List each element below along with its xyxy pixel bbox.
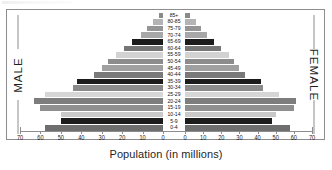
axis-endcap (20, 127, 21, 132)
age-group-label-text: 25-29 (167, 92, 180, 98)
male-bar (124, 46, 163, 52)
x-tick (81, 131, 82, 134)
age-group-label: 5-9 (163, 118, 185, 125)
pyramid-row: 85+ (20, 12, 312, 19)
male-bar (61, 118, 163, 124)
age-group-label-text: 30-34 (167, 85, 180, 91)
female-bar (185, 39, 214, 45)
female-bracket-top (314, 15, 315, 49)
age-group-label: 25-29 (163, 91, 185, 98)
male-bar-cell (20, 85, 163, 92)
male-bar (108, 59, 163, 65)
x-tick (203, 131, 204, 134)
female-bar-cell (185, 32, 312, 39)
population-pyramid-chart: MALE FEMALE 0-45-910-1415-1920-2425-2930… (0, 0, 332, 170)
x-tick-label: 10 (139, 135, 145, 142)
x-tick-label: 20 (119, 135, 125, 142)
pyramid-row: 65-69 (20, 38, 312, 45)
female-bar-cell (185, 19, 312, 26)
male-bar-cell (20, 118, 163, 125)
x-tick (143, 131, 144, 134)
male-bar (34, 98, 163, 104)
x-tick (185, 131, 186, 134)
age-group-label: 65-69 (163, 38, 185, 45)
female-bar (185, 85, 263, 91)
age-group-label-text: 60-64 (167, 45, 180, 51)
age-group-label: 70-74 (163, 32, 185, 39)
male-bar-cell (20, 124, 163, 131)
female-bar-cell (185, 52, 312, 59)
pyramid-row: 55-59 (20, 52, 312, 59)
female-bar (185, 46, 221, 52)
age-group-label: 45-49 (163, 65, 185, 72)
age-group-label-text: 40-44 (167, 72, 180, 78)
pyramid-row: 25-29 (20, 91, 312, 98)
pyramid-row: 5-9 (20, 118, 312, 125)
x-tick (276, 131, 277, 134)
female-bar (185, 13, 190, 19)
age-group-label-text: 5-9 (170, 118, 177, 124)
male-bar-cell (20, 25, 163, 32)
age-group-label: 10-14 (163, 111, 185, 118)
age-group-label: 35-39 (163, 78, 185, 85)
male-bar-cell (20, 19, 163, 26)
male-bar (116, 52, 163, 58)
age-group-label: 85+ (163, 12, 185, 19)
male-bar (77, 79, 163, 85)
male-bar-cell (20, 78, 163, 85)
age-group-label-text: 65-69 (167, 39, 180, 45)
male-bar-cell (20, 105, 163, 112)
x-tick-label: 0 (161, 135, 164, 142)
female-bar (185, 98, 296, 104)
male-bar (147, 26, 163, 32)
scan-artifact (2, 1, 72, 4)
x-tick-label: 60 (291, 135, 297, 142)
pyramid-row: 70-74 (20, 32, 312, 39)
male-bracket-bottom (18, 100, 19, 134)
male-bar (61, 112, 163, 118)
female-bar (185, 19, 196, 25)
age-group-label: 60-64 (163, 45, 185, 52)
male-bar (102, 65, 163, 71)
female-bar-cell (185, 58, 312, 65)
x-tick-label: 40 (78, 135, 84, 142)
age-group-label: 80-85 (163, 19, 185, 26)
male-bar-cell (20, 52, 163, 59)
female-bar-cell (185, 12, 312, 19)
female-bar (185, 92, 279, 98)
female-bar-cell (185, 105, 312, 112)
male-bar (40, 105, 163, 111)
pyramid-row: 80-85 (20, 19, 312, 26)
x-tick (122, 131, 123, 134)
female-bar-cell (185, 72, 312, 79)
female-bar-cell (185, 45, 312, 52)
female-bar-cell (185, 85, 312, 92)
male-bar-cell (20, 32, 163, 39)
female-bar-cell (185, 118, 312, 125)
pyramid-row: 45-49 (20, 65, 312, 72)
age-group-label: 15-19 (163, 105, 185, 112)
female-bar (185, 32, 207, 38)
male-bar-cell (20, 65, 163, 72)
x-tick (294, 131, 295, 134)
male-bar-cell (20, 72, 163, 79)
female-bar (185, 59, 234, 65)
male-bar-cell (20, 12, 163, 19)
x-tick-label: 10 (200, 135, 206, 142)
x-tick (221, 131, 222, 134)
male-bar (153, 19, 163, 25)
x-tick-label: 50 (58, 135, 64, 142)
x-tick-label: 30 (236, 135, 242, 142)
female-bar-cell (185, 25, 312, 32)
female-bar-cell (185, 38, 312, 45)
x-tick-label: 50 (273, 135, 279, 142)
age-group-label-text: 10-14 (167, 111, 180, 117)
male-bar (45, 92, 163, 98)
x-tick (40, 131, 41, 134)
age-group-label: 20-24 (163, 98, 185, 105)
age-group-label-text: 20-24 (167, 98, 180, 104)
female-bar (185, 72, 245, 78)
pyramid-row: 40-44 (20, 72, 312, 79)
age-group-label: 75-79 (163, 25, 185, 32)
male-bar-cell (20, 111, 163, 118)
